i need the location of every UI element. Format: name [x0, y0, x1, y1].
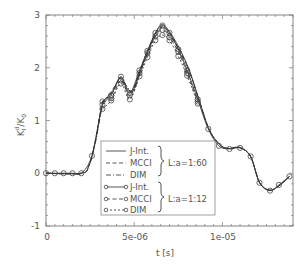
y-label-den-sub: 0	[20, 114, 27, 118]
legend-entry-jint-60: J-Int.	[129, 146, 149, 156]
legend-group-label-60: L:a=1:60	[168, 158, 207, 168]
legend-entry-mcci-60: MCCI	[130, 158, 152, 168]
ytick-label-2: 2	[34, 63, 40, 73]
circle-marker-icon	[124, 208, 128, 212]
ytick-label-3: 3	[34, 10, 40, 20]
series-line	[102, 30, 197, 102]
legend-entry-dim-12: DIM	[130, 205, 146, 215]
xtick-label-0: 0	[44, 232, 50, 242]
y-label-sub: I	[20, 128, 27, 130]
chart: 3 2 1 0 -1 0 5e-06 1e-05 t [s] KId/K0 J-…	[0, 0, 307, 265]
ytick-label-0: 0	[34, 168, 40, 178]
circle-marker-icon	[104, 185, 108, 189]
circle-marker-icon	[124, 185, 128, 189]
xtick-label-1e-05: 1e-05	[210, 232, 236, 242]
legend-entry-dim-60: DIM	[130, 170, 146, 180]
legend-group-label-12: L:a=1:12	[168, 194, 207, 204]
ytick-label-neg1: -1	[31, 221, 40, 231]
legend-entry-mcci-12: MCCI	[130, 194, 152, 204]
circle-marker-icon	[287, 174, 292, 179]
y-axis-label: KId/K0	[13, 114, 27, 136]
xtick-label-5e-06: 5e-06	[122, 232, 148, 242]
legend-entry-jint-12: J-Int.	[129, 182, 149, 192]
legend: J-Int. MCCI DIM L:a=1:60 J-Int. MCCI DIM…	[101, 141, 215, 215]
x-axis-label: t [s]	[156, 248, 174, 258]
ytick-label-1: 1	[34, 116, 40, 126]
circle-marker-icon	[124, 197, 128, 201]
svg-text:KId/K0: KId/K0	[13, 114, 27, 136]
circle-marker-icon	[104, 197, 108, 201]
circle-marker-icon	[104, 208, 108, 212]
